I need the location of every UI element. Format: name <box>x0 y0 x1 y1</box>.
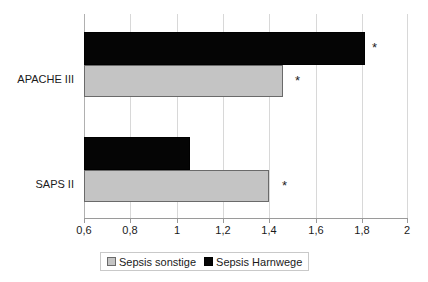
x-tick-mark-2-0 <box>407 219 408 223</box>
x-tick-label-1-8: 1,8 <box>354 224 369 236</box>
legend-entry-sepsis-sonstige: Sepsis sonstige <box>107 256 196 268</box>
gridline-2-0 <box>407 14 408 218</box>
x-tick-label-1-6: 1,6 <box>308 224 323 236</box>
x-tick-label-2-0: 2 <box>404 224 410 236</box>
category-label-apache-iii: APACHE III <box>17 73 74 85</box>
x-tick-mark-1-2 <box>223 219 224 223</box>
legend-swatch-icon-sepsis-harnwege <box>204 257 213 266</box>
x-tick-mark-0-8 <box>130 219 131 223</box>
significance-star-apache-iii-sonstige: * <box>295 74 300 87</box>
x-tick-label-0-8: 0,8 <box>122 224 137 236</box>
x-tick-label-1-2: 1,2 <box>215 224 230 236</box>
x-tick-mark-1-6 <box>316 219 317 223</box>
chart-legend: Sepsis sonstige Sepsis Harnwege <box>100 252 309 271</box>
x-tick-mark-1-4 <box>269 219 270 223</box>
x-tick-label-0-6: 0,6 <box>76 224 91 236</box>
category-label-saps-ii: SAPS II <box>35 178 74 190</box>
legend-label-sepsis-sonstige: Sepsis sonstige <box>119 256 196 268</box>
x-tick-mark-1-0 <box>177 219 178 223</box>
x-axis-ticks: 0,6 0,8 1 1,2 1,4 1,6 1,8 2 <box>84 219 408 241</box>
bar-saps-ii-sepsis-harnwege <box>84 137 190 170</box>
bar-apache-iii-sepsis-sonstige <box>84 65 283 97</box>
plot-area: * * * <box>84 14 408 218</box>
x-tick-mark-0-6 <box>84 219 85 223</box>
x-tick-mark-1-8 <box>362 219 363 223</box>
legend-swatch-icon-sepsis-sonstige <box>107 257 116 266</box>
category-axis: APACHE III SAPS II <box>0 14 78 218</box>
bar-saps-ii-sepsis-sonstige <box>84 170 269 202</box>
legend-label-sepsis-harnwege: Sepsis Harnwege <box>216 256 302 268</box>
x-tick-label-1-4: 1,4 <box>261 224 276 236</box>
x-tick-label-1-0: 1 <box>174 224 180 236</box>
legend-entry-sepsis-harnwege: Sepsis Harnwege <box>204 256 302 268</box>
bar-apache-iii-sepsis-harnwege <box>84 32 365 65</box>
bar-chart: APACHE III SAPS II * * * 0,6 <box>0 0 428 282</box>
significance-star-saps-ii-sonstige: * <box>282 179 287 192</box>
significance-star-apache-iii-harnwege: * <box>372 41 377 54</box>
